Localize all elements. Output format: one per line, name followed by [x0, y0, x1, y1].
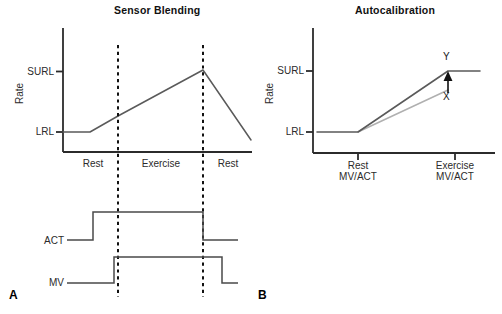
panel-a-mv-trace	[67, 257, 238, 283]
panel-a-curve	[63, 70, 251, 140]
figure-root: Sensor Blending Rate SURL LRL Rest Exerc…	[0, 0, 502, 314]
panel-a-ytick-label-lrl: LRL	[16, 126, 54, 137]
panel-b-y-axis-label: Rate	[264, 72, 275, 116]
mv-step-waveform	[67, 257, 238, 283]
panel-b-point-label-x: X	[443, 91, 450, 102]
panel-letter-a: A	[9, 288, 18, 302]
panel-b-ytick-label-surl: SURL	[266, 65, 304, 76]
panel-b-title: Autocalibration	[355, 4, 435, 16]
panel-b-line-x	[358, 90, 448, 132]
panel-b-xcat-rest-line2: MV/ACT	[328, 171, 388, 182]
panel-b-curves	[317, 71, 480, 132]
act-trace-label: ACT	[22, 235, 64, 246]
mv-trace-label: MV	[22, 277, 64, 288]
panel-a-xcat-rest-2: Rest	[206, 158, 250, 169]
panel-a-blended-rate-line	[63, 70, 251, 140]
panel-a-act-trace	[67, 212, 238, 240]
panel-a-phase-dividers	[118, 45, 203, 297]
panel-a-xcat-rest-1: Rest	[70, 158, 116, 169]
figure-canvas	[0, 0, 502, 314]
panel-a-ytick-label-surl: SURL	[16, 66, 54, 77]
panel-b-axes	[306, 28, 495, 160]
panel-a-title: Sensor Blending	[114, 4, 200, 16]
panel-b-ytick-label-lrl: LRL	[266, 126, 304, 137]
panel-a-y-axis-label: Rate	[14, 72, 25, 116]
panel-a-axes	[56, 28, 252, 152]
act-step-waveform	[67, 212, 238, 240]
panel-b-point-label-y: Y	[443, 51, 450, 62]
panel-b-line-y	[317, 71, 480, 132]
panel-b-xcat-exercise-line2: MV/ACT	[422, 171, 488, 182]
panel-letter-b: B	[258, 288, 267, 302]
panel-a-xcat-exercise: Exercise	[134, 158, 188, 169]
panel-b-xcat-exercise-line1: Exercise	[422, 160, 488, 171]
panel-b-xcat-rest-line1: Rest	[328, 160, 388, 171]
